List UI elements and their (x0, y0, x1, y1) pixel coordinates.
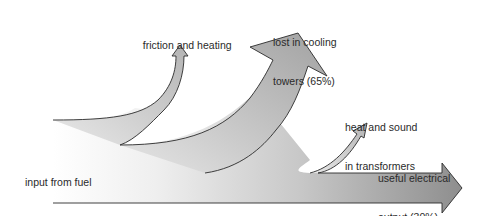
cooling-label-line2: towers (65%) (273, 75, 337, 88)
cooling-towers-label: lost in cooling towers (65%) (273, 10, 337, 101)
input-label-line1: input from fuel (25, 176, 116, 189)
friction-label: friction and heating (137, 26, 232, 52)
friction-label-line1: friction and heating (143, 39, 232, 51)
transformers-label-line1: heat and sound (345, 121, 417, 134)
output-label-line1: useful electrical (378, 172, 450, 185)
output-label-line2: output (30%) (378, 211, 450, 216)
cooling-label-line1: lost in cooling (273, 36, 337, 49)
input-label-line2: and oxygen (100%) (25, 215, 116, 216)
output-label: useful electrical output (30%) (378, 146, 450, 216)
input-label: input from fuel and oxygen (100%) (25, 150, 116, 216)
